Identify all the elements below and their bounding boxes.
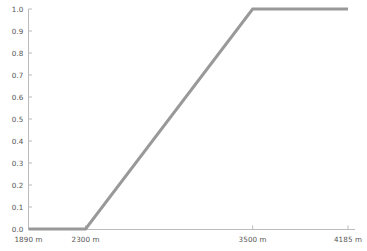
y-tick-label: 0.1 [0, 203, 24, 212]
y-tick-label: 0.2 [0, 181, 24, 190]
y-tick-label: 0.4 [0, 137, 24, 146]
plot-area [0, 0, 367, 251]
x-tick-label: 1890 m [14, 235, 42, 244]
x-tick-label: 3500 m [239, 235, 267, 244]
x-tick-label: 2300 m [71, 235, 99, 244]
y-tick-label: 0.8 [0, 49, 24, 58]
y-tick-label: 0.6 [0, 93, 24, 102]
y-tick-label: 0.0 [0, 225, 24, 234]
x-tick-label: 4185 m [334, 235, 362, 244]
y-tick-label: 0.5 [0, 115, 24, 124]
plot-background [0, 0, 367, 251]
y-tick-label: 0.3 [0, 159, 24, 168]
y-tick-label: 0.7 [0, 71, 24, 80]
y-tick-label: 0.9 [0, 27, 24, 36]
chart-figure: 1.00.90.80.70.60.50.40.30.20.10.0 1890 m… [0, 0, 367, 251]
y-tick-label: 1.0 [0, 5, 24, 14]
